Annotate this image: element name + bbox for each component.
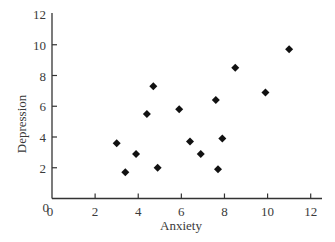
data-point-diamond-icon	[132, 150, 140, 158]
x-tick-label: 12	[304, 204, 317, 219]
data-point-diamond-icon	[231, 64, 239, 72]
data-point-diamond-icon	[143, 110, 151, 118]
data-point-diamond-icon	[261, 88, 269, 96]
data-point-diamond-icon	[175, 105, 183, 113]
data-point-diamond-icon	[197, 150, 205, 158]
data-point-diamond-icon	[212, 96, 220, 104]
data-point-diamond-icon	[121, 168, 129, 176]
y-tick-label: 2	[40, 161, 47, 176]
data-point-diamond-icon	[113, 139, 121, 147]
x-axis-title: Anxiety	[160, 218, 202, 233]
y-tick-label: 10	[33, 38, 46, 53]
x-tick-label: 2	[92, 204, 99, 219]
data-point-diamond-icon	[186, 138, 194, 146]
data-point-diamond-icon	[154, 164, 162, 172]
y-axis: 024681012	[33, 7, 57, 215]
x-tick-label: 4	[135, 204, 142, 219]
data-point-diamond-icon	[218, 135, 226, 143]
plot-area	[113, 45, 293, 176]
x-tick-label: 6	[178, 204, 185, 219]
data-point-diamond-icon	[214, 165, 222, 173]
x-tick-label: 10	[261, 204, 274, 219]
scatter-chart: 024681012 024681012 Anxiety Depression	[0, 0, 335, 242]
data-point-diamond-icon	[285, 45, 293, 53]
y-tick-label: 4	[40, 130, 47, 145]
y-axis-title: Depression	[14, 94, 29, 153]
y-tick-label: 12	[33, 7, 46, 22]
data-point-diamond-icon	[149, 82, 157, 90]
x-tick-label: 8	[221, 204, 228, 219]
x-axis: 024681012	[47, 194, 322, 219]
y-tick-label: 6	[40, 99, 47, 114]
y-tick-label: 8	[40, 69, 47, 84]
x-tick-label: 0	[47, 204, 54, 219]
